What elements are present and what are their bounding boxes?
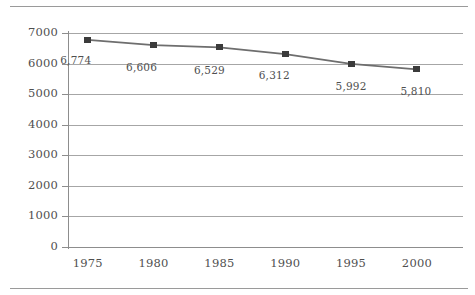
data-label-1980: 6,606	[117, 61, 167, 73]
x-tick-label-1985: 1985	[189, 256, 249, 270]
data-marker-1980	[150, 42, 157, 48]
series-line	[0, 0, 475, 295]
data-marker-1990	[282, 51, 289, 57]
data-label-2000: 5,810	[391, 85, 441, 97]
data-label-1975: 6,774	[51, 54, 101, 66]
x-tick-label-1995: 1995	[321, 256, 381, 270]
data-label-1990: 6,312	[249, 69, 299, 81]
chart-figure: 70006000500040003000200010000 6,7746,606…	[0, 0, 475, 295]
data-label-1985: 6,529	[184, 64, 234, 76]
x-tick-label-1990: 1990	[255, 256, 315, 270]
data-marker-1975	[84, 37, 91, 43]
x-tick-label-1975: 1975	[58, 256, 118, 270]
data-marker-2000	[413, 66, 420, 72]
data-marker-1995	[348, 61, 355, 67]
x-tick-label-2000: 2000	[387, 256, 447, 270]
x-tick-label-1980: 1980	[124, 256, 184, 270]
data-marker-1985	[216, 44, 223, 50]
data-label-1995: 5,992	[326, 80, 376, 92]
